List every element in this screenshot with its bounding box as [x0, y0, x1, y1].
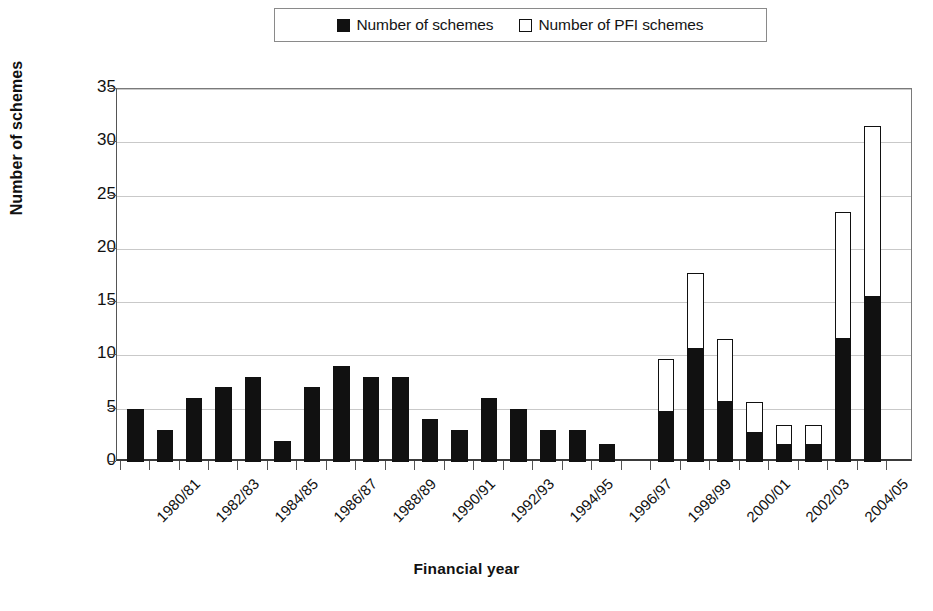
bar-segment-schemes: [363, 377, 380, 462]
legend-swatch-solid-icon: [337, 19, 350, 32]
bar-column: [687, 89, 704, 459]
bar-column: [746, 89, 763, 459]
y-tick-label: 30: [72, 130, 116, 150]
bar-segment-pfi: [658, 359, 675, 412]
y-tick-label: 35: [72, 77, 116, 97]
bar-column: [451, 89, 468, 459]
y-tick-mark: [109, 301, 116, 302]
x-tick-label: 1982/83: [212, 475, 262, 525]
x-tick-label: 1986/87: [330, 475, 380, 525]
bar-segment-schemes: [245, 377, 262, 462]
plot-area: [116, 88, 912, 461]
y-axis-title-wrap: Number of schemes: [14, 88, 54, 461]
y-tick-mark: [109, 248, 116, 249]
bars-layer: [117, 89, 911, 459]
y-axis-title: Number of schemes: [8, 8, 26, 268]
x-tick-label: 1984/85: [271, 475, 321, 525]
legend-entry-number-of-schemes: Number of schemes: [337, 16, 493, 34]
bar-column: [510, 89, 527, 459]
y-tick-mark: [109, 88, 116, 89]
bar-segment-pfi: [864, 126, 881, 297]
y-tick-label: 5: [72, 397, 116, 417]
legend-swatch-hollow-icon: [519, 19, 532, 32]
bar-column: [422, 89, 439, 459]
bar-segment-schemes: [658, 412, 675, 462]
bar-column: [481, 89, 498, 459]
y-tick-label: 10: [72, 343, 116, 363]
bar-segment-schemes: [186, 398, 203, 462]
bar-segment-schemes: [481, 398, 498, 462]
bar-segment-schemes: [599, 444, 616, 462]
x-tick-label: 1996/97: [625, 475, 675, 525]
bar-column: [333, 89, 350, 459]
y-tick-label: 15: [72, 290, 116, 310]
bar-segment-schemes: [776, 445, 793, 462]
bar-column: [599, 89, 616, 459]
bar-segment-pfi: [776, 425, 793, 445]
legend-entry-number-of-pfi-schemes: Number of PFI schemes: [519, 16, 703, 34]
x-tick-label: 2002/03: [802, 475, 852, 525]
bar-segment-pfi: [746, 402, 763, 433]
bar-segment-schemes: [333, 366, 350, 462]
bar-segment-schemes: [215, 387, 232, 462]
y-tick-mark: [109, 195, 116, 196]
chart-container: Number of schemes Number of PFI schemes …: [0, 0, 933, 611]
bar-segment-schemes: [451, 430, 468, 462]
bar-column: [127, 89, 144, 459]
bar-segment-schemes: [127, 409, 144, 462]
bar-segment-pfi: [717, 339, 734, 402]
bar-segment-schemes: [392, 377, 409, 462]
x-tick-label: 1994/95: [566, 475, 616, 525]
legend-label-number-of-schemes: Number of schemes: [356, 16, 493, 34]
chart-legend: Number of schemes Number of PFI schemes: [274, 8, 767, 42]
bar-column: [540, 89, 557, 459]
x-tick-label: 2000/01: [743, 475, 793, 525]
legend-label-number-of-pfi-schemes: Number of PFI schemes: [538, 16, 703, 34]
y-tick-label: 25: [72, 184, 116, 204]
bar-segment-schemes: [540, 430, 557, 462]
bar-column: [363, 89, 380, 459]
y-tick-mark: [109, 141, 116, 142]
bar-column: [658, 89, 675, 459]
x-tick-label: 1992/93: [507, 475, 557, 525]
bar-segment-schemes: [510, 409, 527, 462]
y-tick-label: 20: [72, 237, 116, 257]
bar-column: [805, 89, 822, 459]
bar-segment-schemes: [717, 402, 734, 462]
bar-column: [157, 89, 174, 459]
y-tick-mark: [109, 408, 116, 409]
bar-segment-schemes: [746, 433, 763, 462]
x-tick-label: 1998/99: [684, 475, 734, 525]
bar-column: [717, 89, 734, 459]
bar-segment-pfi: [805, 425, 822, 445]
x-tick-label: 1988/89: [389, 475, 439, 525]
x-tick-label: 1990/91: [448, 475, 498, 525]
bar-column: [304, 89, 321, 459]
bar-column: [392, 89, 409, 459]
bar-column: [186, 89, 203, 459]
bar-segment-schemes: [157, 430, 174, 462]
bar-segment-pfi: [687, 273, 704, 349]
x-tick-label: 2004/05: [861, 475, 911, 525]
bar-segment-schemes: [805, 445, 822, 462]
bar-column: [245, 89, 262, 459]
bar-segment-pfi: [835, 212, 852, 340]
bar-segment-schemes: [422, 419, 439, 462]
bar-segment-schemes: [274, 441, 291, 462]
bar-segment-schemes: [687, 349, 704, 462]
bar-segment-schemes: [864, 297, 881, 462]
bar-segment-schemes: [304, 387, 321, 462]
bar-column: [776, 89, 793, 459]
x-axis-title: Financial year: [0, 560, 933, 578]
bar-segment-schemes: [569, 430, 586, 462]
x-tick-label: 1980/81: [153, 475, 203, 525]
x-axis-labels: 1980/811982/831984/851986/871988/891990/…: [0, 461, 933, 561]
bar-segment-schemes: [835, 339, 852, 462]
y-tick-mark: [109, 354, 116, 355]
bar-column: [215, 89, 232, 459]
bar-column: [864, 89, 881, 459]
y-axis: 05101520253035: [60, 88, 116, 461]
bar-column: [569, 89, 586, 459]
bar-column: [835, 89, 852, 459]
bar-column: [274, 89, 291, 459]
